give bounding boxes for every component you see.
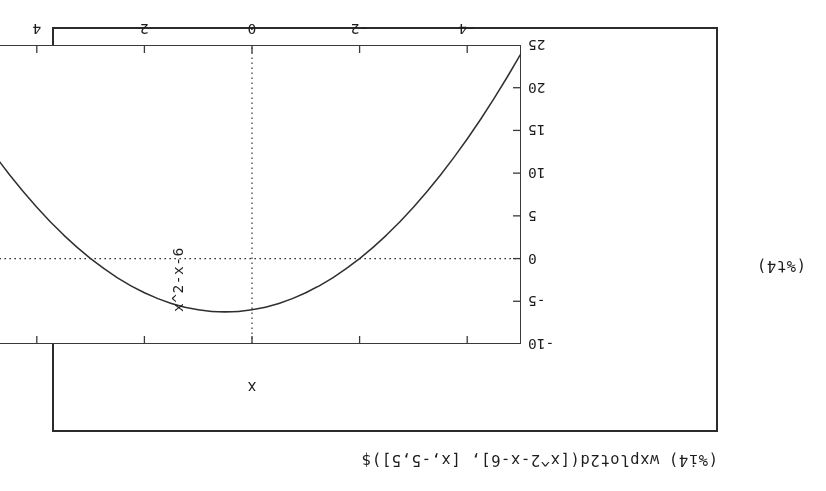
output-tag-label: (%t4) xyxy=(756,257,806,275)
y-tick-label: 20 xyxy=(528,80,545,95)
y-tick-label: 5 xyxy=(528,209,537,224)
x-tick-label: -2 xyxy=(351,22,368,37)
plot-area[interactable]: -10-50510152025 -4-2024 x xyxy=(0,45,521,344)
y-tick-label: -10 xyxy=(528,337,554,352)
x-tick-label: 4 xyxy=(32,22,41,37)
x-tick-marks-top xyxy=(37,336,467,344)
x-tick-label: 2 xyxy=(140,22,149,37)
y-tick-marks xyxy=(513,45,521,344)
input-prompt-label: (%i4) xyxy=(668,451,718,469)
x-axis-title: x xyxy=(247,378,256,396)
y-tick-label: 0 xyxy=(528,251,537,266)
x-tick-label: 0 xyxy=(248,22,257,37)
input-expression-text: wxplot2d([x^2-x-6], [x,-5,5])$ xyxy=(361,451,659,469)
y-tick-label: -5 xyxy=(528,294,545,309)
input-command-line[interactable]: (%i4)wxplot2d([x^2-x-6], [x,-5,5])$ xyxy=(18,443,718,469)
y-tick-label: 15 xyxy=(528,123,545,138)
plot-output-cell[interactable]: -10-50510152025 -4-2024 x x^2-x-6 xyxy=(52,27,718,432)
y-axis-title: x^2-x-6 xyxy=(170,247,186,312)
scanned-page-root: -10-50510152025 -4-2024 x x^2-x-6 (%i4)w… xyxy=(0,0,826,491)
data-curve xyxy=(0,54,521,312)
y-tick-label: 10 xyxy=(528,166,545,181)
x-tick-marks xyxy=(37,45,467,53)
x-tick-label: -4 xyxy=(458,22,475,37)
plot-canvas xyxy=(0,45,521,344)
y-tick-label: 25 xyxy=(528,38,545,53)
